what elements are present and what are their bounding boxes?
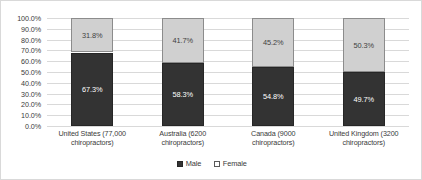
- y-axis-tick-label: 30.0%: [21, 89, 41, 98]
- bar-segment-male[interactable]: 49.7%: [343, 72, 385, 126]
- y-axis-tick-label: 100.0%: [17, 14, 41, 23]
- bar-group[interactable]: 45.2%54.8%: [252, 18, 294, 126]
- legend-swatch-icon: [177, 161, 183, 167]
- legend-swatch-icon: [214, 161, 220, 167]
- gridline: [47, 126, 409, 127]
- bar-value-label: 58.3%: [173, 90, 193, 99]
- y-axis-tick-label: 40.0%: [21, 78, 41, 87]
- bar-segment-male[interactable]: 58.3%: [162, 63, 204, 126]
- y-axis-tick-label: 50.0%: [21, 68, 41, 77]
- x-axis-tick-label: Canada (9000 chiropractors): [232, 129, 315, 148]
- bar-segment-female[interactable]: 41.7%: [162, 18, 204, 63]
- legend-label: Female: [223, 159, 247, 168]
- bar-value-label: 45.2%: [263, 38, 283, 47]
- bar-group[interactable]: 41.7%58.3%: [162, 18, 204, 126]
- y-axis: 100.0%90.0%80.0%70.0%60.0%50.0%40.0%30.0…: [1, 18, 44, 126]
- bar-value-label: 49.7%: [354, 95, 374, 104]
- chart-legend: MaleFemale: [1, 159, 422, 168]
- bar-segment-female[interactable]: 50.3%: [343, 18, 385, 72]
- y-axis-tick-label: 80.0%: [21, 35, 41, 44]
- bar-group[interactable]: 31.8%67.3%: [71, 18, 113, 126]
- legend-item[interactable]: Male: [177, 159, 201, 168]
- bar-segment-female[interactable]: 31.8%: [71, 18, 113, 52]
- y-axis-tick-label: 20.0%: [21, 100, 41, 109]
- bar-value-label: 54.8%: [263, 92, 283, 101]
- chart-container: 100.0%90.0%80.0%70.0%60.0%50.0%40.0%30.0…: [0, 0, 422, 180]
- x-axis-tick-label: Australia (6200 chiropractors): [142, 129, 225, 148]
- x-axis-tick-label: United States (77,000 chiropractors): [51, 129, 134, 148]
- y-axis-tick-label: 0.0%: [25, 122, 41, 131]
- y-axis-tick-label: 10.0%: [21, 111, 41, 120]
- bar-segment-male[interactable]: 54.8%: [252, 67, 294, 126]
- plot-area: 31.8%67.3%41.7%58.3%45.2%54.8%50.3%49.7%: [47, 18, 409, 126]
- x-axis-tick-label: United Kingdom (3200 chiropractors): [323, 129, 406, 148]
- y-axis-tick-label: 70.0%: [21, 46, 41, 55]
- legend-label: Male: [186, 159, 202, 168]
- bar-value-label: 31.8%: [82, 31, 102, 40]
- legend-item[interactable]: Female: [214, 159, 247, 168]
- bar-group[interactable]: 50.3%49.7%: [343, 18, 385, 126]
- y-axis-tick-label: 90.0%: [21, 24, 41, 33]
- bar-segment-male[interactable]: 67.3%: [71, 53, 113, 126]
- y-axis-tick-label: 60.0%: [21, 57, 41, 66]
- x-axis-category-labels: United States (77,000 chiropractors)Aust…: [47, 129, 409, 155]
- bar-value-label: 67.3%: [82, 85, 102, 94]
- bar-value-label: 50.3%: [354, 41, 374, 50]
- bar-segment-female[interactable]: 45.2%: [252, 18, 294, 67]
- bar-value-label: 41.7%: [173, 36, 193, 45]
